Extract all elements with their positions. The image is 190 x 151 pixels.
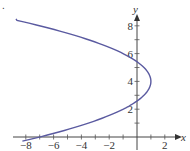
axes xyxy=(13,14,182,150)
y-tick-label: 8 xyxy=(128,20,134,32)
x-tick-label: −6 xyxy=(48,139,60,151)
tick-labels: −8−6−4−222468 xyxy=(20,20,168,151)
y-tick-label: 4 xyxy=(128,75,134,87)
parabola-chart: . −8−6−4−222468 x y xyxy=(0,0,190,151)
x-tick-label: 2 xyxy=(162,139,168,151)
ticks xyxy=(26,26,165,140)
x-tick-label: −4 xyxy=(76,139,88,151)
x-axis-label: x xyxy=(180,131,186,143)
y-axis-label: y xyxy=(132,3,138,15)
x-tick-label: −2 xyxy=(103,139,115,151)
item-marker: . xyxy=(2,0,5,11)
y-axis-arrow-icon xyxy=(134,14,140,21)
